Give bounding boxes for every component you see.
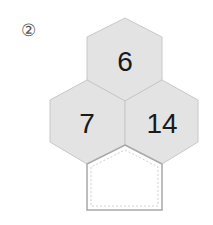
hexagon-puzzle: 6 7 14 xyxy=(0,0,213,225)
cell-right-value: 14 xyxy=(146,108,177,139)
cell-left-value: 7 xyxy=(79,108,95,139)
cell-top-value: 6 xyxy=(117,46,133,77)
